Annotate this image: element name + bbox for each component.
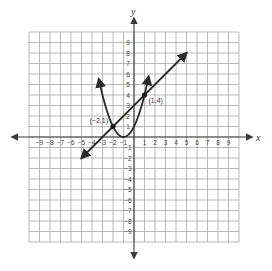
point-label: (1,4): [149, 97, 163, 105]
x-tick-label: 7: [206, 139, 210, 146]
y-tick-label: −9: [124, 228, 132, 235]
x-tick-label: −5: [78, 139, 86, 146]
x-tick-label: 8: [216, 139, 220, 146]
x-tick-label: −9: [36, 139, 44, 146]
x-tick-label: 4: [174, 139, 178, 146]
y-axis-title: y: [130, 6, 136, 17]
y-tick-label: 8: [126, 50, 130, 57]
intersection-point: [110, 124, 115, 129]
y-tick-label: −7: [124, 207, 132, 214]
intersection-point: [142, 92, 147, 97]
x-tick-label: −6: [67, 139, 75, 146]
x-tick-label: 1: [143, 139, 147, 146]
x-axis-title: x: [255, 132, 261, 143]
y-tick-label: 6: [126, 71, 130, 78]
x-tick-label: 5: [185, 139, 189, 146]
y-tick-label: −3: [124, 165, 132, 172]
x-tick-label: −8: [46, 139, 54, 146]
x-tick-label: −7: [57, 139, 65, 146]
x-tick-label: 9: [227, 139, 231, 146]
y-tick-label: 9: [126, 39, 130, 46]
x-tick-label: −2: [109, 139, 117, 146]
coordinate-plane: xy −9−8−7−6−5−4−3−2−1123456789−9−8−7−6−5…: [0, 0, 272, 271]
y-tick-label: −4: [124, 176, 132, 183]
x-tick-label: 6: [195, 139, 199, 146]
y-tick-label: −8: [124, 218, 132, 225]
y-tick-label: −6: [124, 197, 132, 204]
y-tick-label: 5: [126, 81, 130, 88]
y-tick-label: −1: [124, 144, 132, 151]
y-tick-label: 3: [126, 102, 130, 109]
axes: xy: [12, 6, 261, 258]
y-tick-label: 4: [126, 92, 130, 99]
y-tick-label: 1: [126, 123, 130, 130]
x-tick-label: 2: [153, 139, 157, 146]
y-tick-label: −2: [124, 155, 132, 162]
x-tick-label: 3: [164, 139, 168, 146]
point-label: (−2,1): [90, 117, 108, 125]
y-tick-label: −5: [124, 186, 132, 193]
y-tick-label: 7: [126, 60, 130, 67]
